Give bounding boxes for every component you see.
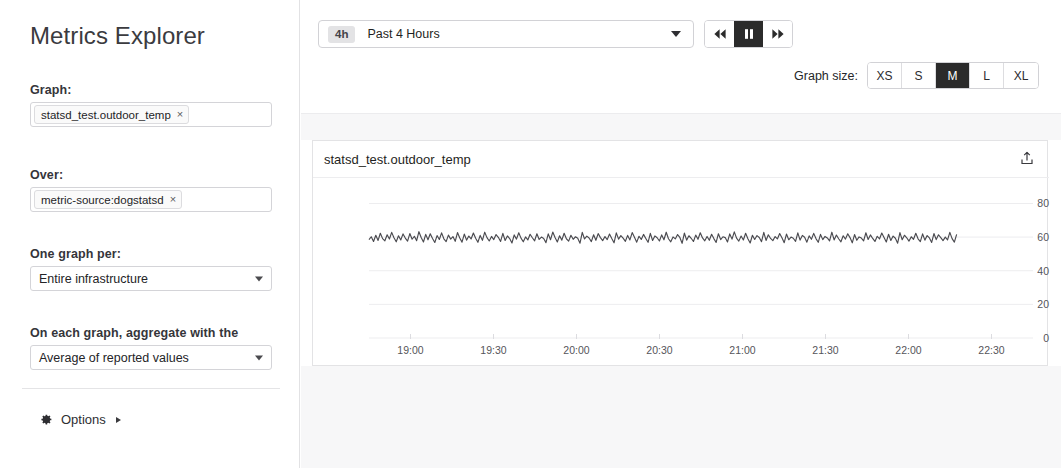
y-axis-tick: 20	[1003, 298, 1049, 310]
field-aggregate-label: On each graph, aggregate with the	[30, 326, 272, 340]
field-graph-label: Graph:	[30, 83, 272, 97]
field-one-graph-per-label: One graph per:	[30, 247, 272, 261]
chevron-down-icon	[255, 355, 263, 360]
graph-size-l[interactable]: L	[970, 63, 1004, 88]
rewind-icon	[713, 28, 727, 40]
y-axis-tick: 60	[1003, 231, 1049, 243]
x-axis-tick: 19:30	[480, 344, 506, 356]
x-axis-tick: 21:00	[729, 344, 755, 356]
graph-size-label: Graph size:	[794, 69, 858, 83]
chevron-right-icon	[116, 417, 121, 423]
one-graph-per-value: Entire infrastructure	[39, 272, 148, 286]
aggregate-value: Average of reported values	[39, 351, 189, 365]
fast-forward-button[interactable]	[763, 21, 792, 47]
x-axis-tick: 21:30	[812, 344, 838, 356]
chevron-down-icon	[255, 276, 263, 281]
graph-size-control: Graph size: XS S M L XL	[794, 62, 1039, 89]
field-over-label: Over:	[30, 168, 272, 182]
content-bottom-band	[301, 366, 1061, 468]
playback-controls	[704, 20, 793, 48]
one-graph-per-select[interactable]: Entire infrastructure	[30, 266, 272, 291]
x-axis-tick: 22:00	[895, 344, 921, 356]
x-axis-tick: 22:30	[978, 344, 1004, 356]
over-scope-input[interactable]: metric-source:dogstatsd ×	[30, 187, 272, 212]
fast-forward-icon	[771, 28, 785, 40]
x-axis-tick: 19:00	[397, 344, 423, 356]
export-icon[interactable]	[1019, 150, 1035, 166]
pause-button[interactable]	[734, 21, 763, 47]
time-range-badge: 4h	[328, 26, 355, 43]
graph-size-s[interactable]: S	[902, 63, 936, 88]
y-axis-tick: 0	[1003, 332, 1049, 344]
over-scope-tag-label: metric-source:dogstatsd	[41, 194, 164, 206]
page-title: Metrics Explorer	[30, 22, 205, 50]
field-over: Over: metric-source:dogstatsd ×	[30, 168, 272, 212]
graph-size-xl[interactable]: XL	[1004, 63, 1038, 88]
field-graph: Graph: statsd_test.outdoor_temp ×	[30, 83, 272, 127]
graph-card: statsd_test.outdoor_temp 020406080 19:00…	[312, 140, 1048, 366]
chevron-down-icon	[671, 31, 681, 37]
graph-plot-area[interactable]: 020406080 19:0019:3020:0020:3021:0021:30…	[313, 178, 1049, 366]
y-axis-tick: 80	[1003, 197, 1049, 209]
x-axis-tick: 20:30	[646, 344, 672, 356]
graph-svg	[313, 178, 1049, 366]
field-aggregate: On each graph, aggregate with the Averag…	[30, 326, 272, 370]
graph-card-title: statsd_test.outdoor_temp	[324, 152, 471, 167]
sidebar-divider	[22, 388, 280, 389]
graph-size-button-group: XS S M L XL	[867, 62, 1039, 89]
content-top-band	[301, 114, 1061, 140]
pause-icon	[743, 28, 755, 40]
y-axis-tick: 40	[1003, 265, 1049, 277]
options-label: Options	[61, 412, 106, 427]
graph-metric-input[interactable]: statsd_test.outdoor_temp ×	[30, 102, 272, 127]
graph-metric-tag[interactable]: statsd_test.outdoor_temp ×	[34, 105, 189, 124]
options-toggle[interactable]: Options	[40, 412, 121, 427]
over-scope-tag[interactable]: metric-source:dogstatsd ×	[34, 190, 182, 209]
time-range-label: Past 4 Hours	[367, 27, 439, 41]
time-range-select[interactable]: 4h Past 4 Hours	[318, 20, 694, 48]
field-one-graph-per: One graph per: Entire infrastructure	[30, 247, 272, 291]
graph-size-m[interactable]: M	[936, 63, 970, 88]
aggregate-select[interactable]: Average of reported values	[30, 345, 272, 370]
graph-size-xs[interactable]: XS	[868, 63, 902, 88]
sidebar: Metrics Explorer Graph: statsd_test.outd…	[0, 0, 300, 468]
graph-metric-tag-remove-icon[interactable]: ×	[177, 109, 183, 120]
over-scope-tag-remove-icon[interactable]: ×	[170, 194, 176, 205]
metrics-explorer-page: Metrics Explorer Graph: statsd_test.outd…	[0, 0, 1061, 468]
gear-icon	[40, 413, 53, 426]
x-axis-tick: 20:00	[563, 344, 589, 356]
rewind-button[interactable]	[705, 21, 734, 47]
graph-metric-tag-label: statsd_test.outdoor_temp	[41, 109, 171, 121]
